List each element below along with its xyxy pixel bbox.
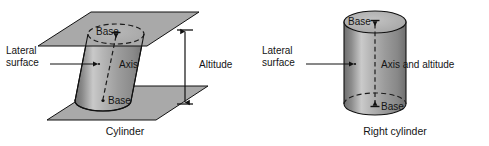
right-label-lateral-surface-line2: surface: [262, 57, 295, 68]
label-lateral-surface-line2: surface: [6, 57, 39, 68]
label-altitude: Altitude: [199, 59, 233, 70]
label-top-base: Base: [96, 26, 119, 37]
caption-right-cylinder: Right cylinder: [363, 125, 427, 137]
cylinder-diagram-svg: Base Base Axis Lateral surface Altitude …: [0, 0, 489, 146]
geometry-figure-cylinders: Base Base Axis Lateral surface Altitude …: [0, 0, 489, 146]
lateral-surface-pointer-dot: [98, 63, 100, 65]
label-axis: Axis: [119, 59, 138, 70]
right-lateral-surface-pointer-dot: [354, 63, 356, 65]
panel-right-cylinder: Base Base Axis and altitude Lateral surf…: [262, 11, 455, 137]
right-label-top-base: Base: [348, 16, 371, 27]
right-label-bottom-base: Base: [381, 101, 404, 112]
label-bottom-base: Base: [108, 95, 131, 106]
label-lateral-surface-line1: Lateral: [6, 45, 37, 56]
caption-cylinder: Cylinder: [106, 125, 145, 137]
right-label-lateral-surface-line1: Lateral: [262, 45, 293, 56]
axis-bottom-dot: [101, 99, 104, 102]
panel-oblique-cylinder: Base Base Axis Lateral surface Altitude …: [6, 12, 233, 137]
right-label-axis: Axis and altitude: [381, 59, 455, 70]
